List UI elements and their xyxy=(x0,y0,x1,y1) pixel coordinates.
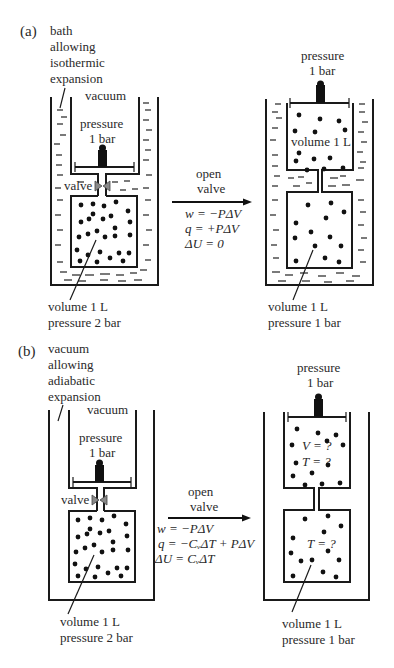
equation-work: w = −PΔV xyxy=(157,521,215,536)
pressure-label: pressure xyxy=(79,430,123,445)
valve-icon[interactable] xyxy=(92,495,107,505)
equation-heat: q = +PΔV xyxy=(185,221,241,236)
process-arrow-b: open valve w = −PΔV q = −CᵥΔT + PΔV ΔU =… xyxy=(154,484,256,566)
vacuum-pointer-line xyxy=(58,405,63,421)
apparatus-a-initial: vacuum pressure 1 bar valve xyxy=(48,88,158,330)
gas-particles xyxy=(73,514,131,580)
bath-label-line4: expansion xyxy=(50,71,103,86)
equation-work: w = −PΔV xyxy=(185,206,243,221)
pressure-value: 1 bar xyxy=(307,375,334,390)
valve-label: valve xyxy=(61,492,89,507)
bath-label-line1: bath xyxy=(50,23,73,38)
pressure-label: pressure xyxy=(80,116,124,131)
bath-label-line2: allowing xyxy=(50,39,96,54)
panel-a-label: (a) xyxy=(20,23,37,40)
gas-volume-label: volume 1 L xyxy=(268,299,328,314)
thermodynamics-expansion-diagram: (a) bath allowing isothermic expansion v… xyxy=(0,0,394,668)
upper-volume-label: volume 1 L xyxy=(291,134,351,149)
gas-pressure-label: pressure 1 bar xyxy=(268,315,342,330)
pressure-value: 1 bar xyxy=(89,131,116,146)
gas-pointer-line xyxy=(293,250,313,300)
process-arrow-a: open valve w = −PΔV q = +PΔV ΔU = 0 xyxy=(172,166,252,251)
gas-pointer-line xyxy=(68,555,94,614)
vacuum-label-line2: allowing xyxy=(48,357,94,372)
equation-energy: ΔU = CᵥΔT xyxy=(154,551,215,566)
pressure-label: pressure xyxy=(297,360,341,375)
vacuum-label: vacuum xyxy=(87,402,128,417)
pressure-label: pressure xyxy=(301,48,345,63)
gas-volume-label: volume 1 L xyxy=(60,614,120,629)
vacuum-label-line1: vacuum xyxy=(48,341,89,356)
valve-label: valve xyxy=(64,178,92,193)
lower-temperature-unknown: T = ? xyxy=(307,536,336,551)
gas-pointer-line xyxy=(70,240,96,300)
weight-icon xyxy=(314,399,323,417)
weight-icon xyxy=(98,150,107,167)
gas-pressure-label: pressure 2 bar xyxy=(48,315,122,330)
equation-heat: q = −CᵥΔT + PΔV xyxy=(158,536,256,551)
apparatus-b-final: pressure 1 bar V = ? T = ? T = ? xyxy=(264,360,369,647)
vacuum-label-line3: adiabatic xyxy=(48,373,95,388)
gas-pressure-label: pressure 1 bar xyxy=(282,632,356,647)
vacuum-label: vacuum xyxy=(85,88,126,103)
arrow-label-line2: valve xyxy=(190,499,218,514)
gas-volume-label: volume 1 L xyxy=(48,299,108,314)
panel-b-label: (b) xyxy=(18,343,36,360)
weight-icon xyxy=(95,465,104,482)
gas-volume-label: volume 1 L xyxy=(282,616,342,631)
arrow-label-line1: open xyxy=(196,166,222,181)
pressure-value: 1 bar xyxy=(309,63,336,78)
gas-particles-lower xyxy=(293,201,347,265)
panel-a: (a) bath allowing isothermic expansion v… xyxy=(20,23,373,330)
bath-pointer-line xyxy=(60,88,65,108)
apparatus-b-initial: vacuum pressure 1 bar valve volume 1 L p… xyxy=(49,402,154,645)
equation-energy: ΔU = 0 xyxy=(184,236,224,251)
weight-icon xyxy=(316,85,325,103)
arrow-label-line2: valve xyxy=(197,181,225,196)
gas-particles xyxy=(75,200,133,265)
gas-pressure-label: pressure 2 bar xyxy=(60,630,134,645)
panel-b: (b) vacuum allowing adiabatic expansion … xyxy=(18,341,369,647)
bath-vessel xyxy=(266,99,373,285)
bath-label-line3: isothermic xyxy=(50,55,105,70)
apparatus-a-final: pressure 1 bar volume 1 L xyxy=(266,48,373,330)
valve-icon[interactable] xyxy=(95,181,110,191)
pressure-value: 1 bar xyxy=(89,445,116,460)
gas-pointer-line xyxy=(292,565,311,612)
arrow-label-line1: open xyxy=(188,484,214,499)
